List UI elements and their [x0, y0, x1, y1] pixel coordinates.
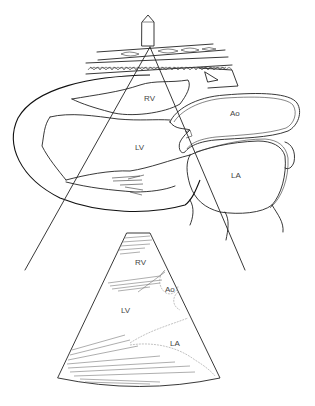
ultrasound-beam — [25, 47, 245, 270]
echo-diagram: RV Ao LV LA RV Ao LV LA — [0, 0, 315, 406]
label-ao: Ao — [230, 109, 240, 118]
echo-label-la: LA — [170, 339, 180, 348]
label-lv: LV — [135, 143, 145, 152]
heart-drawing — [13, 75, 299, 240]
echo-label-rv: RV — [135, 258, 147, 267]
label-rv: RV — [144, 94, 156, 103]
echo-label-lv: LV — [121, 306, 131, 315]
transducer-icon — [142, 15, 154, 46]
echo-label-ao: Ao — [165, 285, 175, 294]
echo-sector-image — [58, 233, 220, 387]
label-la: LA — [231, 171, 241, 180]
